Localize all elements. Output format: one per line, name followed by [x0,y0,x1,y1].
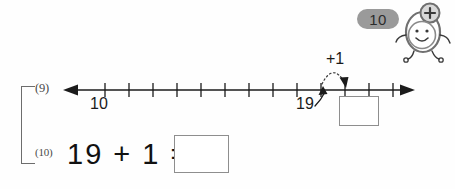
worksheet-page: (9) (10) 10 [0,0,455,189]
equation-text: 19 + 1 = [67,138,189,171]
answer-box-equation[interactable] [174,135,229,173]
answer-box-number-line[interactable] [339,96,379,126]
jump-arrowhead-icon [340,77,349,88]
tick-group [105,83,393,97]
exercise-bracket [21,86,35,164]
pointer-arrowhead-icon [319,86,328,95]
exercise-number-9: (9) [35,81,49,96]
jump-arc [322,73,345,84]
right-arrowhead-icon [400,85,415,96]
jump-label: +1 [326,50,344,68]
plus-character-icon [392,2,454,64]
left-arrowhead-icon [63,85,78,96]
tick-label-start: 10 [90,95,108,113]
pointer-stroke [315,92,325,106]
exercise-number-10: (10) [35,146,53,158]
tick-label-current: 19 [296,95,314,113]
